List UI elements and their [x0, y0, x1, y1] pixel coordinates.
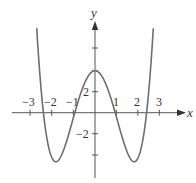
y-axis-label: y — [89, 5, 97, 20]
x-axis-label: x — [186, 105, 193, 120]
y-axis-arrow-icon — [92, 21, 98, 30]
x-axis-arrow-icon — [177, 110, 186, 116]
function-plot: x y −3 −2 −1 1 2 3 2 −2 — [0, 0, 196, 183]
y-tick-label: 2 — [83, 85, 89, 99]
y-tick-label: −2 — [76, 127, 89, 141]
x-tick-label: 3 — [156, 95, 162, 109]
x-tick-label: −3 — [22, 95, 35, 109]
x-tick-label: 2 — [134, 95, 140, 109]
x-tick-label: −2 — [44, 95, 57, 109]
